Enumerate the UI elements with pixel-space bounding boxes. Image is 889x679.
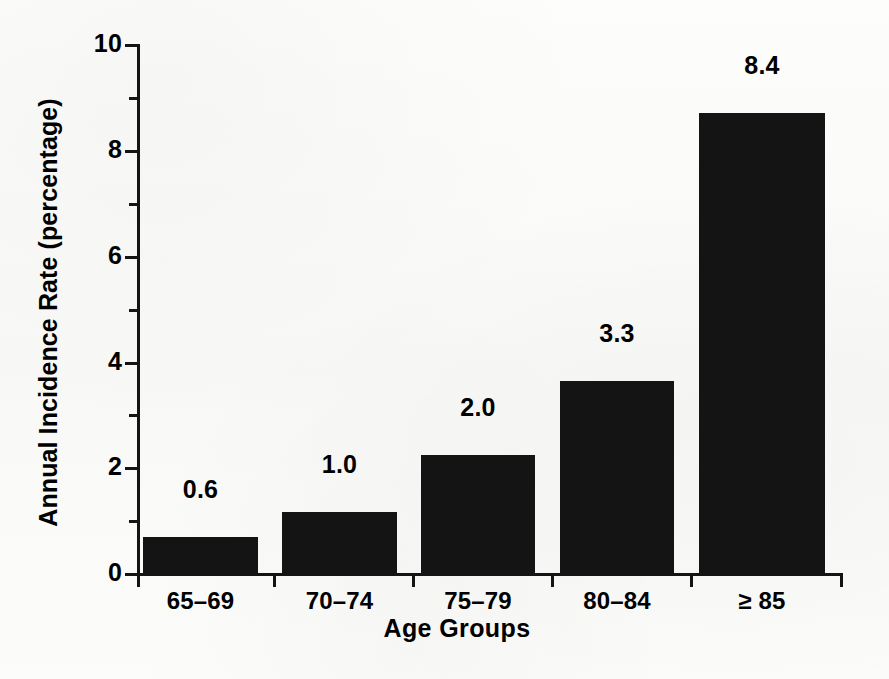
y-tick-minor-3 <box>129 414 137 417</box>
y-tick-label-0: 0 <box>74 560 122 585</box>
x-axis-title: Age Groups <box>137 614 777 643</box>
y-tick-major-2 <box>125 467 137 470</box>
bar-value-label-65-69: 0.6 <box>143 477 258 502</box>
x-tick-label-65-69: 65–69 <box>143 587 258 615</box>
y-tick-label-4: 4 <box>74 349 122 374</box>
y-axis-title: Annual Incidence Rate (percentage) <box>34 53 63 573</box>
bar-70-74 <box>282 512 397 573</box>
x-tick-label-80-84: 80–84 <box>560 587 674 615</box>
x-tick-start <box>137 576 140 587</box>
bar-85-plus <box>699 113 825 573</box>
x-tick-label-75-79: 75–79 <box>421 587 535 615</box>
y-tick-label-2: 2 <box>74 454 122 479</box>
y-tick-major-8 <box>125 150 137 153</box>
y-tick-major-0 <box>125 573 137 576</box>
bar-value-label-75-79: 2.0 <box>421 395 535 420</box>
x-tick-2 <box>412 576 415 587</box>
x-tick-label-70-74: 70–74 <box>282 587 397 615</box>
bar-80-84 <box>560 381 674 573</box>
y-tick-label-6: 6 <box>74 243 122 268</box>
y-tick-minor-5 <box>129 309 137 312</box>
bar-75-79 <box>421 455 535 573</box>
y-axis-tick-labels: 10 8 6 4 2 0 <box>60 0 122 679</box>
y-tick-label-8: 8 <box>74 137 122 162</box>
x-tick-3 <box>551 576 554 587</box>
y-tick-minor-7 <box>129 203 137 206</box>
x-tick-end <box>840 576 843 587</box>
y-tick-major-6 <box>125 256 137 259</box>
x-tick-label-85-plus: ≥ 85 <box>699 587 825 615</box>
bar-65-69 <box>143 537 258 573</box>
x-tick-1 <box>273 576 276 587</box>
bar-value-label-70-74: 1.0 <box>282 452 397 477</box>
y-tick-major-10 <box>125 44 137 47</box>
y-tick-label-10: 10 <box>74 31 122 56</box>
x-tick-4 <box>690 576 693 587</box>
y-tick-minor-1 <box>129 520 137 523</box>
y-tick-minor-9 <box>129 97 137 100</box>
chart-figure: 10 8 6 4 2 0 Annual Incidence Rate (perc… <box>0 0 889 679</box>
bar-value-label-85-plus: 8.4 <box>699 53 825 78</box>
y-tick-major-4 <box>125 362 137 365</box>
bar-value-label-80-84: 3.3 <box>560 321 674 346</box>
x-axis-line <box>137 573 843 576</box>
